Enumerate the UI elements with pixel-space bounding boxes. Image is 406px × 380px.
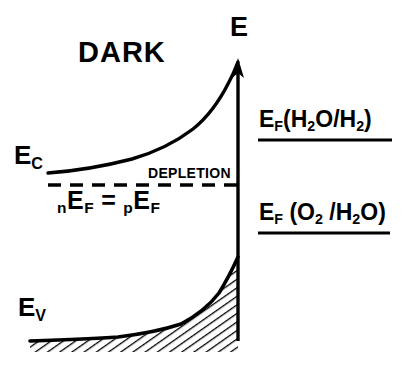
redox-h2-sub1: 2 [307, 118, 315, 134]
fermi-n-prefix: n [57, 199, 67, 216]
fermi-p-prefix: p [123, 199, 133, 216]
redox-level-label-o2-h2o: EF (O2 /H2O) [259, 201, 386, 224]
redox-h2-mid: O/H [315, 106, 356, 132]
conduction-band-label: EC [14, 142, 43, 168]
conduction-band-label-E: E [14, 140, 31, 170]
conduction-band-edge-curve [48, 62, 238, 173]
energy-axis-label: E [230, 14, 248, 41]
conduction-band-label-sub: C [31, 154, 43, 172]
redox-h2-open: (H [283, 106, 307, 132]
band-diagram-figure: DARK E EC EV nEF=pEF DEPLETION EF(H2O/H2… [0, 0, 406, 380]
redox-h2-sub2: 2 [356, 118, 364, 134]
redox-o2-sub2: 2 [352, 211, 360, 227]
redox-o2-E: E [259, 199, 274, 225]
fermi-level-label: nEF=pEF [57, 188, 160, 213]
fermi-p-sub: F [150, 199, 160, 216]
fermi-n-E: E [67, 186, 84, 214]
redox-h2-close: ) [364, 106, 372, 132]
redox-h2-E: E [259, 106, 274, 132]
redox-level-label-h2o-h2: EF(H2O/H2) [259, 108, 372, 131]
redox-o2-sub1: 2 [315, 211, 323, 227]
figure-title: DARK [78, 38, 166, 67]
fermi-equals: = [94, 186, 123, 214]
valence-band-label-E: E [18, 292, 35, 322]
redox-o2-mid: /H [323, 199, 352, 225]
redox-o2-open: (O [283, 199, 315, 225]
fermi-p-E: E [133, 186, 150, 214]
valence-band-label: EV [18, 294, 46, 320]
redox-o2-sub: F [274, 211, 283, 227]
redox-h2-sub: F [274, 118, 283, 134]
depletion-region-label: DEPLETION [148, 166, 231, 180]
fermi-n-sub: F [84, 199, 94, 216]
valence-band-label-sub: V [35, 306, 46, 324]
redox-o2-close: O) [360, 199, 386, 225]
